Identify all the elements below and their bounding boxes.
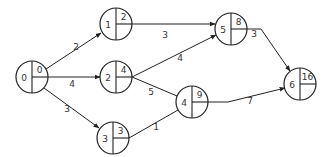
edge-2-4: 5 xyxy=(132,77,177,97)
edge-weight-label: 5 xyxy=(148,87,154,97)
edge-weight-label: 3 xyxy=(64,104,70,114)
node-earliest-time: 3 xyxy=(118,126,124,136)
edge-0-2: 4 xyxy=(48,77,100,89)
node-earliest-time: 16 xyxy=(302,72,314,82)
edge-5-6: 3 xyxy=(247,29,290,71)
node-label: 2 xyxy=(105,73,111,83)
edge-weight-label: 3 xyxy=(251,29,257,39)
node-4: 49 xyxy=(176,86,208,118)
edge-weight-label: 2 xyxy=(73,42,79,52)
node-label: 5 xyxy=(220,25,226,35)
edge-weight-label: 7 xyxy=(247,96,253,106)
node-3: 33 xyxy=(97,122,129,154)
node-1: 12 xyxy=(100,8,132,40)
node-label: 3 xyxy=(102,134,108,144)
node-label: 4 xyxy=(181,98,187,108)
edge-0-1: 2 xyxy=(46,33,101,69)
node-earliest-time: 9 xyxy=(197,90,203,100)
node-0: 00 xyxy=(16,61,48,93)
node-earliest-time: 4 xyxy=(121,65,127,75)
edge-4-6: 7 xyxy=(208,88,285,106)
node-earliest-time: 8 xyxy=(236,17,242,27)
edge-line xyxy=(44,88,99,128)
edges-layer: 243345173 xyxy=(44,24,290,138)
node-label: 0 xyxy=(21,73,27,83)
node-label: 1 xyxy=(105,20,111,30)
edge-2-5: 4 xyxy=(132,35,216,77)
node-5: 58 xyxy=(215,13,247,45)
edge-line xyxy=(132,35,216,77)
node-earliest-time: 0 xyxy=(37,65,43,75)
network-diagram: 243345173 001224334958616 xyxy=(0,0,331,157)
node-6: 616 xyxy=(284,68,316,100)
node-earliest-time: 2 xyxy=(121,12,127,22)
node-2: 24 xyxy=(100,61,132,93)
edge-line xyxy=(132,77,177,96)
node-label: 6 xyxy=(289,80,295,90)
edge-0-3: 3 xyxy=(44,88,99,128)
edge-weight-label: 4 xyxy=(69,79,75,89)
edge-weight-label: 4 xyxy=(177,53,183,63)
edge-weight-label: 3 xyxy=(162,30,168,40)
edge-3-4: 1 xyxy=(129,110,178,138)
edge-1-5: 3 xyxy=(132,24,215,40)
edge-weight-label: 1 xyxy=(153,122,159,132)
